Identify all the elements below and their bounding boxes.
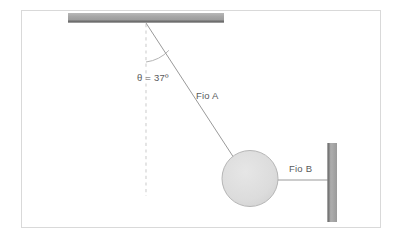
angle-label: θ = 37º xyxy=(137,72,169,83)
string-a-label: Fio A xyxy=(196,90,219,101)
ball xyxy=(222,151,278,207)
ceiling-support xyxy=(68,13,224,23)
string-b-label: Fio B xyxy=(289,163,312,174)
diagram-canvas: θ = 37º Fio A Fio B xyxy=(0,0,401,243)
string-a-line xyxy=(146,23,234,158)
diagram-graphics xyxy=(0,0,401,243)
wall-support xyxy=(328,143,338,222)
